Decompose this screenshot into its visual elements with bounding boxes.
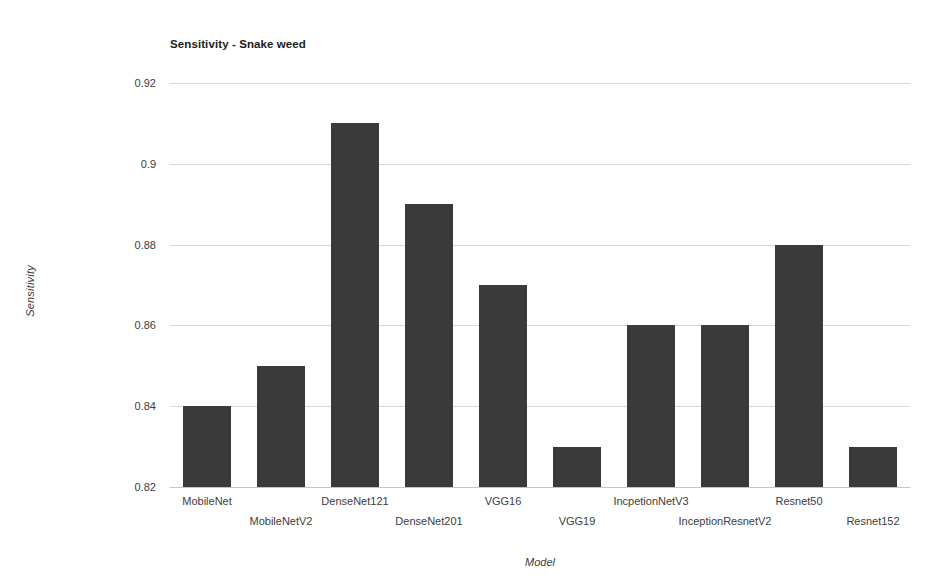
bar[interactable] bbox=[553, 447, 601, 487]
bar[interactable] bbox=[479, 285, 527, 487]
x-tick-label: Resnet50 bbox=[775, 495, 822, 507]
x-tick-label: InceptionResnetV2 bbox=[679, 515, 772, 527]
y-axis-title: Sensitivity bbox=[0, 0, 60, 582]
x-axis-tick-labels: MobileNetMobileNetV2DenseNet121DenseNet2… bbox=[170, 487, 910, 542]
bar[interactable] bbox=[331, 123, 379, 487]
bars-group bbox=[170, 83, 910, 487]
bar[interactable] bbox=[775, 245, 823, 487]
y-tick-label: 0.82 bbox=[135, 481, 156, 493]
y-tick-label: 0.84 bbox=[135, 400, 156, 412]
bar[interactable] bbox=[405, 204, 453, 487]
x-tick-label: VGG19 bbox=[559, 515, 596, 527]
x-tick-label: MobileNet bbox=[182, 495, 232, 507]
x-tick-label: DenseNet201 bbox=[395, 515, 462, 527]
y-tick-label: 0.92 bbox=[135, 77, 156, 89]
y-tick-label: 0.9 bbox=[141, 158, 156, 170]
bar[interactable] bbox=[701, 325, 749, 487]
x-tick-label: VGG16 bbox=[485, 495, 522, 507]
bar[interactable] bbox=[183, 406, 231, 487]
x-axis-title: Model bbox=[170, 556, 910, 568]
x-tick-label: IncpetionNetV3 bbox=[613, 495, 688, 507]
bar[interactable] bbox=[849, 447, 897, 487]
sensitivity-bar-chart: Sensitivity Sensitivity - Snake weed 0.9… bbox=[0, 0, 950, 582]
y-axis-title-label: Sensitivity bbox=[24, 265, 36, 317]
y-tick-label: 0.88 bbox=[135, 239, 156, 251]
plot-area: 0.920.90.880.860.840.82 bbox=[170, 83, 910, 487]
x-tick-label: DenseNet121 bbox=[321, 495, 388, 507]
x-tick-label: Resnet152 bbox=[846, 515, 899, 527]
chart-title: Sensitivity - Snake weed bbox=[170, 38, 306, 50]
x-tick-label: MobileNetV2 bbox=[250, 515, 313, 527]
y-tick-label: 0.86 bbox=[135, 319, 156, 331]
bar[interactable] bbox=[257, 366, 305, 487]
bar[interactable] bbox=[627, 325, 675, 487]
